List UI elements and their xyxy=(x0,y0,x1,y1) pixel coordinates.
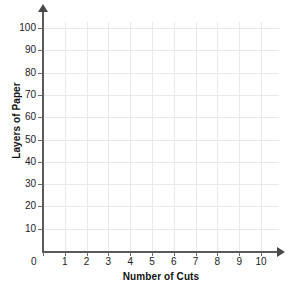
x-tick-label: 7 xyxy=(184,256,208,268)
x-tick-label: 8 xyxy=(205,256,229,268)
y-tick-mark xyxy=(38,73,42,74)
gridline-vertical xyxy=(261,22,262,252)
x-tick-label: 6 xyxy=(162,256,186,268)
y-tick-mark xyxy=(38,206,42,207)
gridline-vertical xyxy=(239,22,240,252)
gridline-vertical xyxy=(217,22,218,252)
y-axis-arrow-icon xyxy=(38,4,48,12)
gridline-horizontal xyxy=(43,73,279,74)
y-tick-label: 30 xyxy=(2,179,36,189)
x-tick-label: 9 xyxy=(227,256,251,268)
y-tick-label: 90 xyxy=(2,45,36,55)
x-tick-label: 3 xyxy=(96,256,120,268)
y-axis-line xyxy=(42,10,44,253)
gridline-horizontal xyxy=(43,140,279,141)
gridline-horizontal xyxy=(43,117,279,118)
gridline-vertical xyxy=(174,22,175,252)
y-tick-mark xyxy=(38,117,42,118)
origin-label: 0 xyxy=(31,256,37,268)
gridline-horizontal xyxy=(43,28,279,29)
x-axis-arrow-icon xyxy=(277,247,285,257)
x-axis-line xyxy=(42,251,281,253)
gridline-vertical xyxy=(65,22,66,252)
y-tick-mark xyxy=(38,162,42,163)
x-tick-label: 2 xyxy=(75,256,99,268)
x-tick-label: 10 xyxy=(249,256,273,268)
y-axis-title: Layers of Paper xyxy=(11,61,22,181)
y-tick-mark xyxy=(38,140,42,141)
y-tick-mark xyxy=(38,28,42,29)
gridline-vertical xyxy=(152,22,153,252)
y-tick-label: 10 xyxy=(2,224,36,234)
gridline-horizontal xyxy=(43,184,279,185)
x-tick-label: 1 xyxy=(53,256,77,268)
gridline-horizontal xyxy=(43,95,279,96)
gridline-vertical xyxy=(196,22,197,252)
chart-container: 12345678910 102030405060708090100 0 Numb… xyxy=(0,0,291,290)
gridline-vertical xyxy=(108,22,109,252)
x-tick-mark xyxy=(43,252,44,256)
plot-area xyxy=(43,22,279,252)
y-tick-label: 20 xyxy=(2,201,36,211)
x-axis-title: Number of Cuts xyxy=(43,271,279,282)
x-tick-label: 4 xyxy=(118,256,142,268)
x-tick-label: 5 xyxy=(140,256,164,268)
gridline-horizontal xyxy=(43,229,279,230)
gridline-horizontal xyxy=(43,206,279,207)
gridline-vertical xyxy=(87,22,88,252)
gridline-vertical xyxy=(130,22,131,252)
gridline-horizontal xyxy=(43,50,279,51)
y-tick-mark xyxy=(38,229,42,230)
y-tick-mark xyxy=(38,95,42,96)
gridline-horizontal xyxy=(43,162,279,163)
y-tick-mark xyxy=(38,184,42,185)
y-tick-label: 100 xyxy=(2,23,36,33)
y-tick-mark xyxy=(38,50,42,51)
